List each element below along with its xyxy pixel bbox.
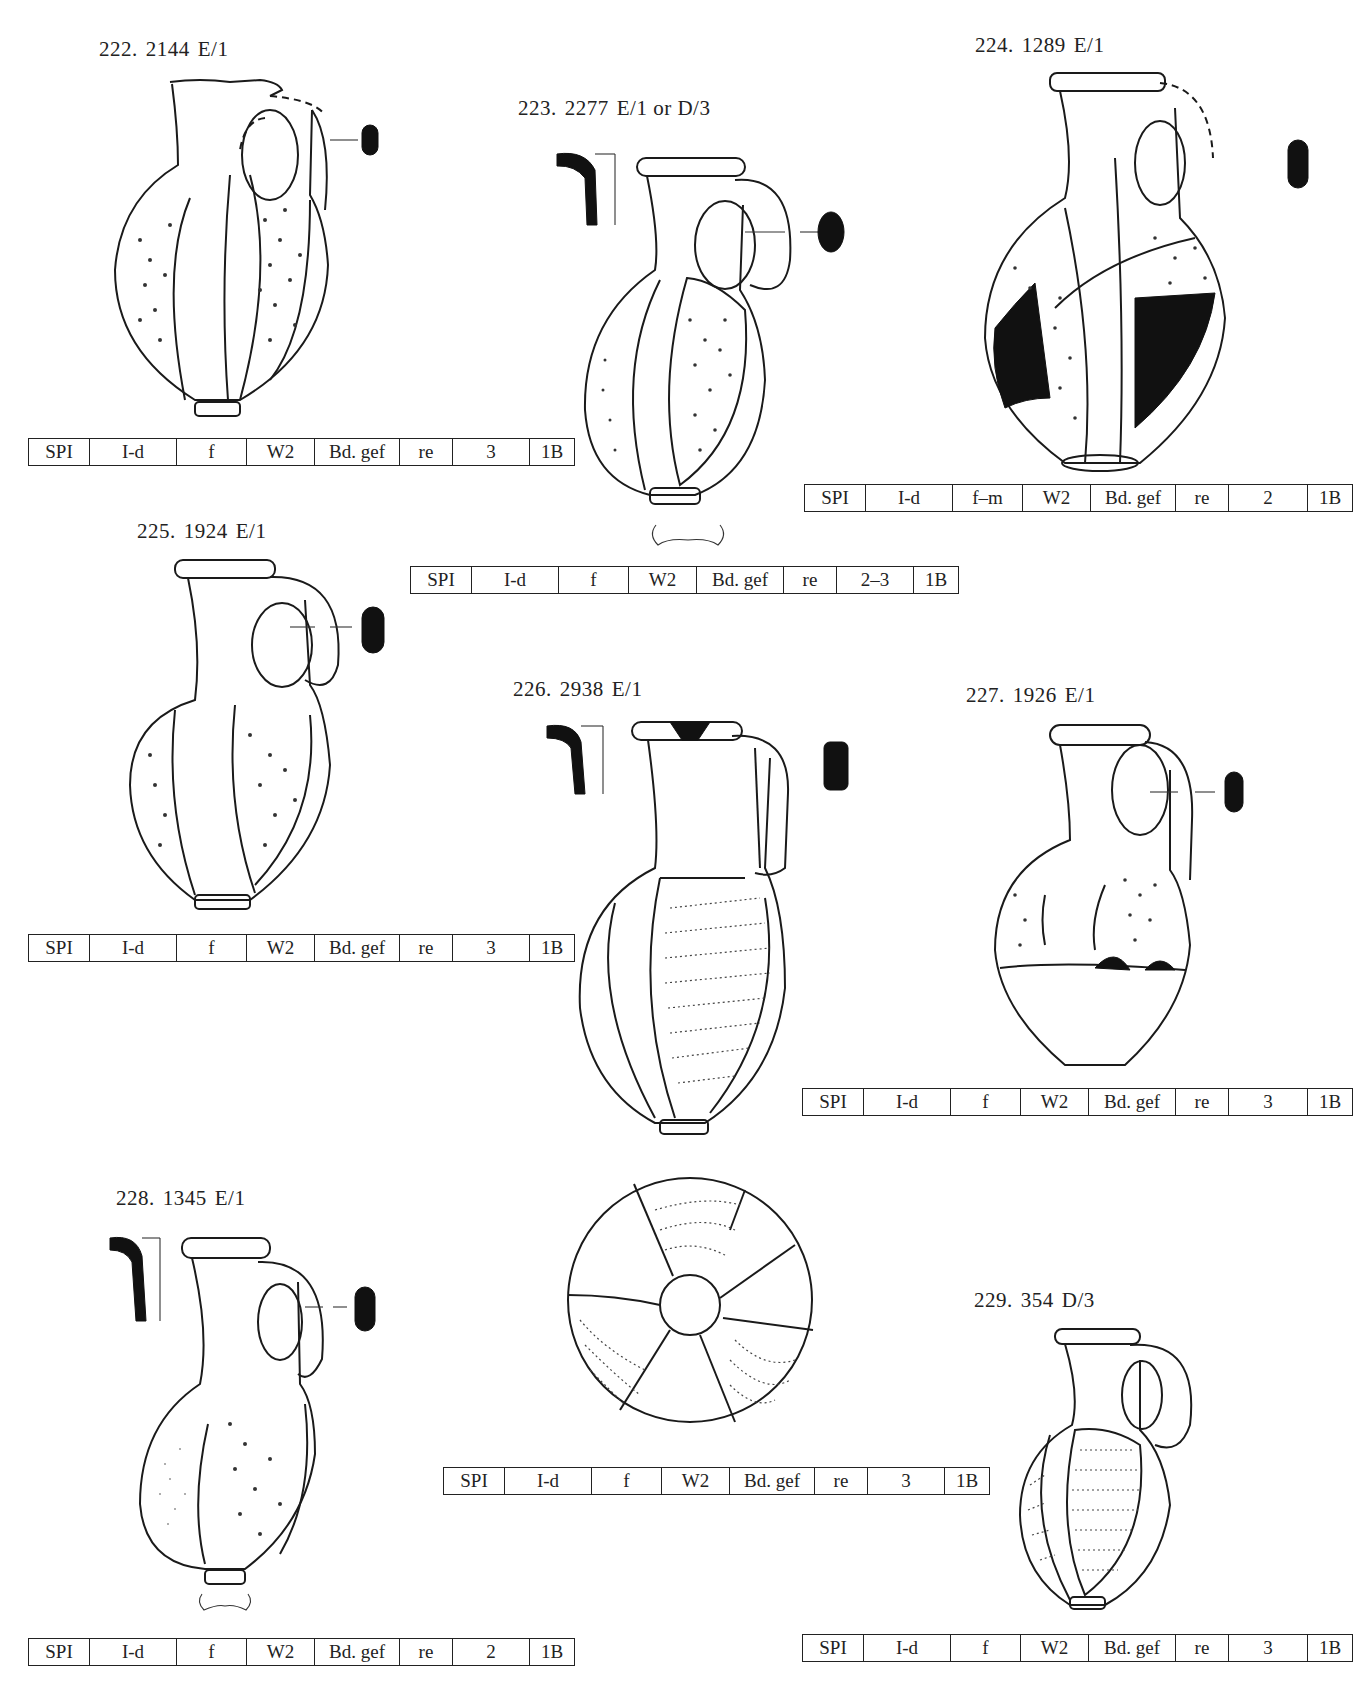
handle-section-224 [1285, 135, 1315, 195]
jug-drawing-224 [975, 68, 1245, 478]
cell-phase: 1B [1308, 1635, 1353, 1662]
cell-fabric: f–m [953, 485, 1023, 512]
cell-ware: SPI [803, 1635, 864, 1662]
cell-fabric: f [951, 1089, 1021, 1116]
cell-firing: 3 [868, 1468, 945, 1495]
cell-ware: SPI [444, 1468, 505, 1495]
handle-section-227 [1150, 770, 1260, 820]
catalogue-label-229: 229.354D/3 [974, 1288, 1095, 1313]
cell-type: I-d [90, 1639, 177, 1666]
handle-section-222 [330, 120, 390, 160]
catalogue-number: 223. [518, 96, 557, 120]
cell-surface: re [400, 1639, 453, 1666]
catalogue-number: 228. [116, 1186, 155, 1210]
jug-drawing-229 [1010, 1325, 1210, 1615]
cell-type: I-d [864, 1635, 951, 1662]
cell-surface: re [1176, 1089, 1229, 1116]
context-code: D/3 [1062, 1288, 1095, 1312]
catalogue-label-226: 226.2938E/1 [513, 677, 642, 702]
inventory-number: 2144 [146, 37, 190, 61]
cell-type: I-d [866, 485, 953, 512]
cell-surface: re [400, 935, 453, 962]
cell-surface: re [784, 567, 837, 594]
catalogue-label-227: 227.1926E/1 [966, 683, 1095, 708]
inventory-number: 1924 [184, 519, 228, 543]
catalogue-number: 229. [974, 1288, 1013, 1312]
cell-fabric: f [951, 1635, 1021, 1662]
attribute-table-225: SPI I-d f W2 Bd. gef re 3 1B [28, 934, 575, 962]
attribute-table-223: SPI I-d f W2 Bd. gef re 2–3 1B [410, 566, 959, 594]
cell-ware-group: W2 [1021, 1635, 1089, 1662]
cell-ware-group: W2 [662, 1468, 730, 1495]
cell-decoration: Bd. gef [315, 439, 400, 466]
cell-phase: 1B [914, 567, 959, 594]
cell-firing: 3 [1229, 1089, 1308, 1116]
cell-phase: 1B [530, 1639, 575, 1666]
cell-fabric: f [177, 439, 247, 466]
cell-type: I-d [90, 439, 177, 466]
catalogue-number: 226. [513, 677, 552, 701]
cell-decoration: Bd. gef [1091, 485, 1176, 512]
cell-surface: re [400, 439, 453, 466]
cell-firing: 2–3 [837, 567, 914, 594]
cell-phase: 1B [1308, 485, 1353, 512]
cell-type: I-d [472, 567, 559, 594]
inventory-number: 1926 [1013, 683, 1057, 707]
cell-ware-group: W2 [1023, 485, 1091, 512]
cell-surface: re [1176, 485, 1229, 512]
cell-type: I-d [864, 1089, 951, 1116]
attribute-table-226: SPI I-d f W2 Bd. gef re 3 1B [443, 1467, 990, 1495]
attribute-table-227: SPI I-d f W2 Bd. gef re 3 1B [802, 1088, 1353, 1116]
inventory-number: 354 [1021, 1288, 1054, 1312]
context-code: E/1 or D/3 [617, 96, 711, 120]
cell-decoration: Bd. gef [730, 1468, 815, 1495]
cell-ware: SPI [411, 567, 472, 594]
cell-decoration: Bd. gef [315, 1639, 400, 1666]
cell-ware-group: W2 [247, 1639, 315, 1666]
cell-ware: SPI [803, 1089, 864, 1116]
cell-type: I-d [505, 1468, 592, 1495]
cell-fabric: f [559, 567, 629, 594]
cell-ware-group: W2 [629, 567, 697, 594]
base-view-226 [565, 1170, 815, 1430]
inventory-number: 1289 [1022, 33, 1066, 57]
catalogue-label-228: 228.1345E/1 [116, 1186, 245, 1211]
cell-type: I-d [90, 935, 177, 962]
cell-phase: 1B [1308, 1089, 1353, 1116]
context-code: E/1 [1074, 33, 1105, 57]
cell-surface: re [815, 1468, 868, 1495]
attribute-table-224: SPI I-d f–m W2 Bd. gef re 2 1B [804, 484, 1353, 512]
cell-firing: 3 [1229, 1635, 1308, 1662]
cell-surface: re [1176, 1635, 1229, 1662]
catalogue-label-222: 222.2144E/1 [99, 37, 228, 62]
catalogue-label-224: 224.1289E/1 [975, 33, 1104, 58]
inventory-number: 2938 [560, 677, 604, 701]
cell-phase: 1B [530, 439, 575, 466]
catalogue-number: 224. [975, 33, 1014, 57]
inventory-number: 1345 [163, 1186, 207, 1210]
handle-section-226 [820, 740, 860, 800]
catalogue-label-225: 225.1924E/1 [137, 519, 266, 544]
cell-decoration: Bd. gef [1089, 1635, 1176, 1662]
cell-ware-group: W2 [1021, 1089, 1089, 1116]
cell-firing: 2 [1229, 485, 1308, 512]
base-profile-223 [648, 520, 728, 555]
cell-firing: 3 [453, 439, 530, 466]
cell-fabric: f [177, 935, 247, 962]
catalogue-number: 225. [137, 519, 176, 543]
attribute-table-229: SPI I-d f W2 Bd. gef re 3 1B [802, 1634, 1353, 1662]
handle-section-223 [745, 210, 845, 260]
cell-decoration: Bd. gef [315, 935, 400, 962]
context-code: E/1 [215, 1186, 246, 1210]
cell-decoration: Bd. gef [697, 567, 784, 594]
cell-decoration: Bd. gef [1089, 1089, 1176, 1116]
catalogue-label-223: 223.2277E/1 or D/3 [518, 96, 710, 121]
cell-fabric: f [592, 1468, 662, 1495]
context-code: E/1 [612, 677, 643, 701]
handle-section-228 [305, 1285, 385, 1335]
handle-section-225 [290, 605, 410, 655]
cell-fabric: f [177, 1639, 247, 1666]
cell-ware-group: W2 [247, 935, 315, 962]
context-code: E/1 [198, 37, 229, 61]
attribute-table-222: SPI I-d f W2 Bd. gef re 3 1B [28, 438, 575, 466]
